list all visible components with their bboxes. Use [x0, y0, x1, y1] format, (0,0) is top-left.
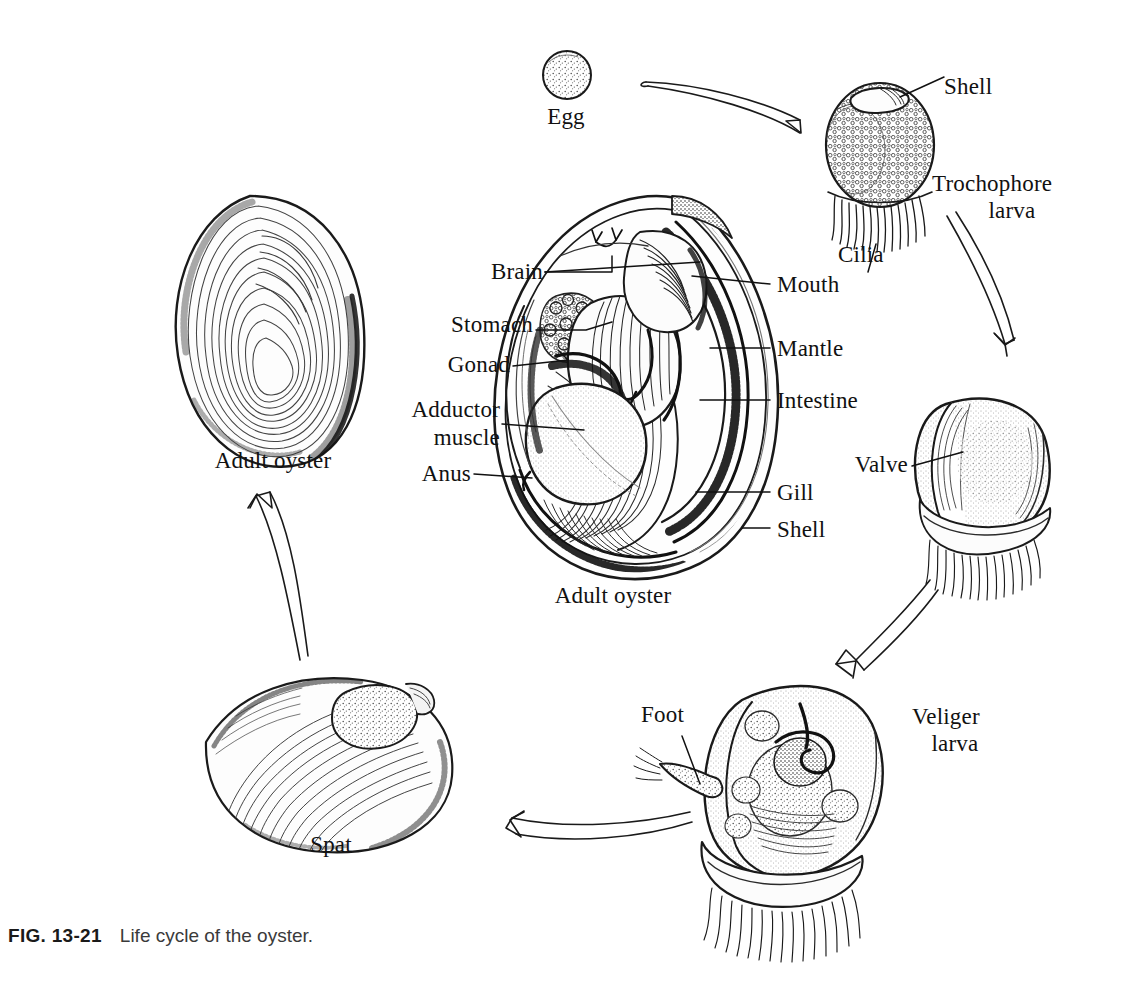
part-label-gonad: Gonad: [345, 352, 510, 378]
arrow-trochophore-to-veliger: [947, 212, 1015, 356]
part-label-brain: Brain: [345, 259, 543, 285]
adductor-label-line1: Adductor: [412, 397, 500, 422]
trochophore-label-line2: larva: [932, 197, 1092, 224]
part-label-adductor-muscle: Adductormuscle: [330, 396, 500, 452]
part-label-gill: Gill: [777, 480, 814, 506]
figure-caption-text: Life cycle of the oyster.: [120, 925, 313, 946]
arrow-egg-to-trochophore: [641, 82, 801, 133]
figure-caption: FIG. 13-21Life cycle of the oyster.: [8, 925, 313, 947]
veliger-label-line1: Veliger: [912, 704, 980, 729]
trochophore-larva-illustration: [825, 83, 934, 252]
part-label-veliger-foot: Foot: [590, 702, 684, 728]
arrow-veliger-to-spat: [506, 811, 692, 839]
part-label-trochophore-shell: Shell: [944, 74, 992, 100]
part-label-anus: Anus: [345, 461, 471, 487]
part-label-stomach: Stomach: [345, 312, 533, 338]
arrow-veliger-to-settling: [836, 580, 938, 678]
part-label-mouth: Mouth: [777, 272, 839, 298]
veliger-label-line2: larva: [912, 730, 998, 757]
part-label-shell-adult: Shell: [777, 517, 825, 543]
arrow-spat-to-adult: [248, 492, 308, 660]
egg-illustration: [543, 51, 591, 99]
trochophore-label-line1: Trochophore: [932, 171, 1052, 196]
stage-label-veliger-larva: Veligerlarva: [912, 703, 1052, 757]
part-label-mantle: Mantle: [777, 336, 843, 362]
adductor-label-line2: muscle: [434, 425, 500, 450]
stage-label-trochophore-larva: Trochophorelarva: [932, 170, 1092, 224]
figure-life-cycle-of-the-oyster: Egg Trochophorelarva Veligerlarva Spat A…: [0, 0, 1131, 991]
stage-label-spat: Spat: [276, 832, 386, 858]
leader-trochophore-shell: [900, 77, 944, 97]
part-label-intestine: Intestine: [777, 388, 858, 414]
adult-oyster-anatomy-illustration: [494, 196, 778, 579]
part-label-veliger-valve: Valve: [800, 452, 908, 478]
figure-number: FIG. 13-21: [8, 925, 102, 946]
stage-label-egg: Egg: [516, 104, 616, 130]
stage-label-adult-oyster-center: Adult oyster: [468, 583, 758, 609]
veliger-larva-upper-illustration: [915, 399, 1050, 600]
part-label-trochophore-cilia: Cilia: [838, 242, 884, 268]
oyster-life-cycle-illustration: [0, 0, 1131, 991]
